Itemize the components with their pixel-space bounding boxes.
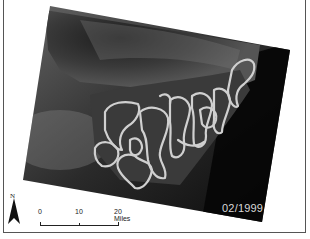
scale-tick-20: 20 Miles (114, 208, 138, 222)
satellite-imagery (0, 0, 310, 239)
north-arrow-icon (7, 196, 21, 226)
date-label: 02/1999 (222, 202, 263, 214)
scale-bar-mid-tick (79, 223, 80, 226)
scale-bar: 0 10 20 Miles (38, 208, 138, 230)
scale-tick-0: 0 (38, 208, 42, 215)
scale-tick-10: 10 (75, 208, 83, 215)
